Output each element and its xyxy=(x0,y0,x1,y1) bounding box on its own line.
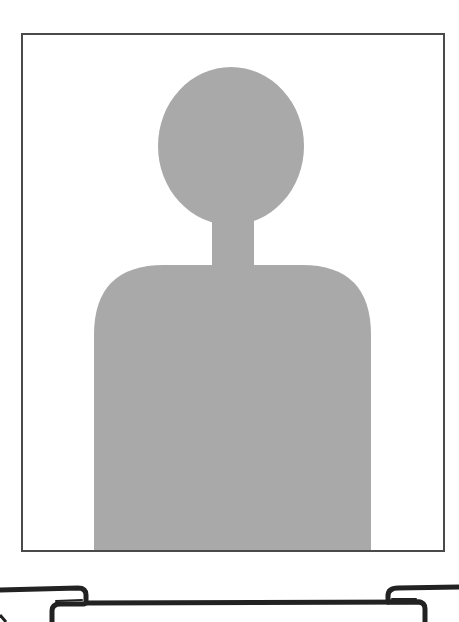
profile-photo-placeholder: Placeholder profile photo silhouette xyxy=(21,33,445,552)
folder-tab-outline-icon xyxy=(0,575,459,622)
person-silhouette-icon xyxy=(23,35,443,550)
